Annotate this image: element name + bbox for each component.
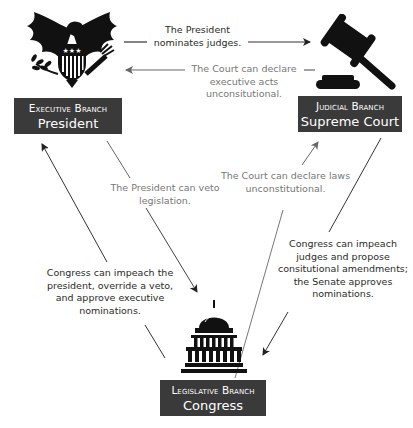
judicial-branch-box: Judicial Branch Supreme Court bbox=[298, 96, 402, 132]
capitol-building-icon bbox=[181, 300, 247, 376]
caption-line: nominates judges. bbox=[145, 37, 250, 50]
legislative-branch-subtitle: Congress bbox=[160, 398, 266, 413]
caption-line: judges and propose bbox=[273, 251, 413, 264]
caption-line: The Court can declare bbox=[182, 63, 306, 76]
caption-line: nominations. bbox=[273, 288, 413, 301]
caption-line: executive acts bbox=[182, 76, 306, 89]
caption-line: president, override a veto, bbox=[40, 280, 180, 293]
caption-line: The Court can declare laws bbox=[218, 170, 353, 183]
caption-line: legislation. bbox=[100, 195, 230, 208]
arrow-congress-checks-exec bbox=[42, 144, 165, 358]
executive-branch-subtitle: President bbox=[14, 116, 122, 131]
caption-court-declares-laws: The Court can declare laws unconstitutio… bbox=[218, 170, 353, 195]
caption-congress-checks-exec: Congress can impeach the president, over… bbox=[40, 267, 180, 317]
caption-line: the Senate approves bbox=[273, 276, 413, 289]
caption-line: consitutional amendments; bbox=[273, 263, 413, 276]
caption-line: and approve executive bbox=[40, 292, 180, 305]
caption-line: unconsitutional. bbox=[182, 88, 306, 101]
executive-branch-box: Executive Branch President bbox=[14, 98, 122, 134]
caption-president-veto: The President can veto legislation. bbox=[100, 182, 230, 207]
caption-president-nominates: The President nominates judges. bbox=[145, 24, 250, 49]
caption-court-declares-exec: The Court can declare executive acts unc… bbox=[182, 63, 306, 101]
caption-congress-checks-court: Congress can impeach judges and propose … bbox=[273, 238, 413, 301]
caption-line: Congress can impeach the bbox=[40, 267, 180, 280]
caption-line: nominations. bbox=[40, 305, 180, 318]
svg-text:★★★: ★★★ bbox=[63, 47, 82, 55]
executive-branch-title: Executive Branch bbox=[14, 101, 122, 116]
gavel-icon bbox=[308, 14, 404, 94]
judicial-branch-subtitle: Supreme Court bbox=[298, 114, 402, 129]
legislative-branch-title: Legislative Branch bbox=[160, 383, 266, 398]
caption-line: Congress can impeach bbox=[273, 238, 413, 251]
legislative-branch-box: Legislative Branch Congress bbox=[160, 380, 266, 416]
judicial-branch-title: Judicial Branch bbox=[298, 99, 402, 114]
caption-line: unconstitutional. bbox=[218, 183, 353, 196]
eagle-seal-icon: ★★★ bbox=[22, 8, 122, 94]
caption-line: The President can veto bbox=[100, 182, 230, 195]
caption-line: The President bbox=[145, 24, 250, 37]
